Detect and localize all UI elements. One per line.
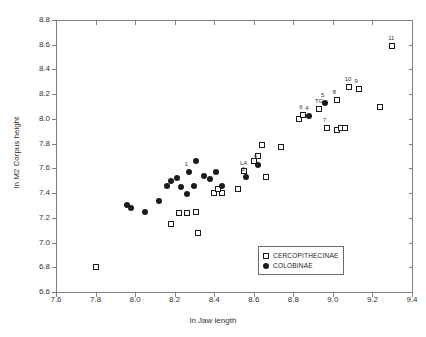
x-tick-top <box>175 21 176 25</box>
x-tick-top <box>96 21 97 25</box>
data-point-colobinae <box>156 198 162 204</box>
y-tick-label: 8.0 <box>26 114 50 124</box>
y-tick <box>52 69 56 70</box>
x-tick-top <box>56 21 57 25</box>
data-point-cercopithecinae <box>93 264 99 270</box>
data-point-colobinae <box>255 162 261 168</box>
y-tick-label: 6.8 <box>26 262 50 272</box>
x-tick-top <box>372 21 373 25</box>
data-point-label: 3 <box>254 154 257 160</box>
y-tick-right <box>409 69 413 70</box>
legend-item-colobinae: COLOBINAE <box>263 261 338 270</box>
x-tick-top <box>254 21 255 25</box>
y-axis-title: ln M2 Corpus height <box>12 83 21 223</box>
data-point-label: 7 <box>323 117 326 123</box>
data-point-cercopithecinae <box>377 104 383 110</box>
data-point-colobinae <box>174 175 180 181</box>
x-tick-label: 8.4 <box>199 295 229 304</box>
data-point-label: LA <box>240 160 247 166</box>
x-tick-label: 9.2 <box>357 295 387 304</box>
data-point-label: 6 <box>299 104 302 110</box>
data-point-label: 8 <box>333 89 336 95</box>
y-tick <box>52 267 56 268</box>
plot-frame <box>56 20 412 292</box>
legend: CERCOPITHECINAE COLOBINAE <box>258 246 344 275</box>
data-point-cercopithecinae <box>168 221 174 227</box>
y-tick-label: 7.0 <box>26 238 50 248</box>
data-point-cercopithecinae <box>263 174 269 180</box>
data-point-label: 9 <box>355 78 358 84</box>
scatter-plot-figure: 7.67.88.08.28.48.68.89.09.29.4 6.66.87.0… <box>0 0 426 337</box>
data-point-colobinae <box>219 183 225 189</box>
x-axis-line <box>56 292 412 293</box>
data-point-cercopithecinae <box>176 210 182 216</box>
y-tick-label: 8.2 <box>26 89 50 99</box>
y-tick-right <box>409 45 413 46</box>
data-point-label: 5 <box>321 92 324 98</box>
data-point-cercopithecinae <box>316 106 322 112</box>
data-point-cercopithecinae <box>235 186 241 192</box>
y-tick-label: 7.4 <box>26 188 50 198</box>
x-tick-top <box>214 21 215 25</box>
y-tick-right <box>409 218 413 219</box>
y-tick <box>52 193 56 194</box>
y-tick-label: 8.8 <box>26 15 50 25</box>
data-point-cercopithecinae <box>389 43 395 49</box>
y-tick-right <box>409 20 413 21</box>
y-tick-right <box>409 168 413 169</box>
x-tick-label: 9.4 <box>397 295 426 304</box>
data-point-cercopithecinae <box>346 84 352 90</box>
y-tick-right <box>409 144 413 145</box>
data-point-cercopithecinae <box>342 125 348 131</box>
data-point-label: 4 <box>305 105 308 111</box>
data-point-label: 2 <box>242 166 245 172</box>
data-point-cercopithecinae <box>259 142 265 148</box>
data-point-label: 11 <box>388 35 394 41</box>
y-tick-right <box>409 292 413 293</box>
legend-item-cercopithecinae: CERCOPITHECINAE <box>263 251 338 260</box>
y-tick <box>52 218 56 219</box>
y-tick-right <box>409 193 413 194</box>
data-point-colobinae <box>142 209 148 215</box>
x-tick-label: 8.6 <box>239 295 269 304</box>
y-tick <box>52 45 56 46</box>
legend-label: COLOBINAE <box>273 262 313 269</box>
y-tick <box>52 20 56 21</box>
y-tick-label: 8.4 <box>26 64 50 74</box>
y-tick <box>52 168 56 169</box>
data-point-cercopithecinae <box>334 97 340 103</box>
data-point-colobinae <box>186 169 192 175</box>
data-point-colobinae <box>184 191 190 197</box>
x-tick-top <box>135 21 136 25</box>
y-tick-right <box>409 267 413 268</box>
x-tick-top <box>333 21 334 25</box>
data-point-colobinae <box>243 174 249 180</box>
data-point-cercopithecinae <box>324 125 330 131</box>
y-tick <box>52 94 56 95</box>
y-tick <box>52 292 56 293</box>
open-square-icon <box>263 253 269 259</box>
y-tick-right <box>409 243 413 244</box>
data-point-label: 10 <box>345 76 352 82</box>
data-point-cercopithecinae <box>195 230 201 236</box>
x-tick-label: 7.8 <box>81 295 111 304</box>
filled-circle-icon <box>263 263 269 269</box>
y-tick-label: 7.8 <box>26 139 50 149</box>
legend-label: CERCOPITHECINAE <box>273 252 338 259</box>
data-point-colobinae <box>178 184 184 190</box>
x-tick-label: 8.0 <box>120 295 150 304</box>
y-tick-label: 6.6 <box>26 287 50 297</box>
y-tick <box>52 119 56 120</box>
y-tick <box>52 243 56 244</box>
right-axis-line <box>412 20 413 292</box>
y-tick-label: 7.2 <box>26 213 50 223</box>
y-tick-right <box>409 119 413 120</box>
x-axis-title: ln Jaw length <box>0 316 426 325</box>
y-tick-label: 8.6 <box>26 40 50 50</box>
x-tick-top <box>293 21 294 25</box>
data-point-cercopithecinae <box>193 209 199 215</box>
x-tick-top <box>412 21 413 25</box>
data-point-colobinae <box>322 100 328 106</box>
data-point-colobinae <box>164 183 170 189</box>
y-tick-label: 7.6 <box>26 163 50 173</box>
